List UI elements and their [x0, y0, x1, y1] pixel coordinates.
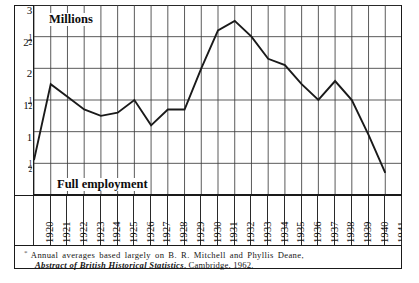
x-tick-1932: 1932: [246, 221, 257, 243]
footnote-source-title: Abstract of British Historical Statistic…: [35, 260, 184, 270]
x-axis-year-strip: 1920192119221923192419251926192719281929…: [14, 195, 402, 246]
footnote-line-1: *Annual averages based largely on B. R. …: [24, 248, 396, 260]
axis-title-millions: Millions: [47, 13, 95, 26]
x-tick-1925: 1925: [129, 221, 140, 243]
x-tick-1923: 1923: [96, 221, 107, 243]
x-tick-1937: 1937: [330, 221, 341, 243]
plot-area: [33, 5, 401, 195]
x-tick-1941: 1941: [397, 221, 402, 243]
x-tick-1929: 1929: [196, 221, 207, 243]
y-tick-2-5: 212: [23, 35, 32, 47]
x-tick-1931: 1931: [229, 221, 240, 243]
y-axis-labels: 3 212 2 112 1 12: [14, 5, 33, 195]
figure-root: 3 212 2 112 1 12 Millions Full employmen…: [0, 0, 419, 283]
x-tick-1939: 1939: [363, 221, 374, 243]
footnote-marker: *: [24, 249, 28, 257]
x-axis-separator: [33, 196, 34, 246]
x-tick-1926: 1926: [146, 221, 157, 243]
x-tick-1933: 1933: [263, 221, 274, 243]
x-tick-1921: 1921: [62, 221, 73, 243]
footnote: *Annual averages based largely on B. R. …: [14, 246, 402, 269]
x-tick-1940: 1940: [380, 221, 391, 243]
x-tick-1922: 1922: [79, 221, 90, 243]
footnote-line-2: Abstract of British Historical Statistic…: [24, 260, 396, 270]
data-series-unemployment: [34, 21, 385, 173]
footnote-line-1-text: Annual averages based largely on B. R. M…: [31, 250, 304, 260]
x-tick-1938: 1938: [346, 221, 357, 243]
x-tick-1934: 1934: [280, 221, 291, 243]
y-tick-0-5: 12: [28, 162, 32, 174]
x-tick-1930: 1930: [213, 221, 224, 243]
x-tick-1928: 1928: [179, 221, 190, 243]
y-tick-1: 1: [27, 131, 32, 142]
y-tick-3: 3: [27, 5, 32, 16]
y-tick-2: 2: [27, 68, 32, 79]
x-tick-1935: 1935: [296, 221, 307, 243]
x-tick-1924: 1924: [112, 221, 123, 243]
x-tick-1927: 1927: [162, 221, 173, 243]
full-employment-label: Full employment: [55, 178, 150, 191]
x-tick-1920: 1920: [45, 221, 56, 243]
y-tick-1-5: 112: [23, 99, 32, 111]
unemployment-line-chart: [34, 5, 401, 195]
footnote-source-rest: , Cambridge, 1962.: [184, 260, 254, 270]
x-tick-1936: 1936: [313, 221, 324, 243]
